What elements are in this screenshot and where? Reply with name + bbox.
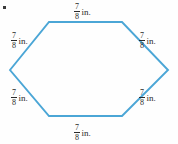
fraction-numerator: 7 [139, 89, 145, 97]
fraction-numerator: 7 [11, 89, 17, 97]
fraction-denominator: 8 [139, 99, 145, 107]
side-label-top: 7 8 in. [74, 3, 91, 21]
geometry-figure: 7 8 in. 7 8 in. 7 8 in. 7 8 in. 7 [0, 0, 178, 144]
unit-label: in. [82, 8, 91, 17]
side-label-lower-right: 7 8 in. [139, 89, 156, 107]
fraction-upper-left: 7 8 [11, 32, 17, 50]
fraction-denominator: 8 [11, 99, 17, 107]
side-label-upper-left: 7 8 in. [11, 32, 28, 50]
fraction-numerator: 7 [11, 32, 17, 40]
unit-label: in. [19, 94, 28, 103]
fraction-denominator: 8 [11, 42, 17, 50]
fraction-denominator: 8 [74, 13, 80, 21]
fraction-top: 7 8 [74, 3, 80, 21]
unit-label: in. [147, 94, 156, 103]
fraction-upper-right: 7 8 [139, 32, 145, 50]
fraction-bottom: 7 8 [74, 124, 80, 142]
fraction-lower-right: 7 8 [139, 89, 145, 107]
fraction-denominator: 8 [139, 42, 145, 50]
fraction-numerator: 7 [139, 32, 145, 40]
side-label-upper-right: 7 8 in. [139, 32, 156, 50]
unit-label: in. [19, 37, 28, 46]
side-label-lower-left: 7 8 in. [11, 89, 28, 107]
fraction-denominator: 8 [74, 134, 80, 142]
unit-label: in. [147, 37, 156, 46]
unit-label: in. [82, 129, 91, 138]
fraction-numerator: 7 [74, 3, 80, 11]
fraction-lower-left: 7 8 [11, 89, 17, 107]
side-label-bottom: 7 8 in. [74, 124, 91, 142]
fraction-numerator: 7 [74, 124, 80, 132]
hexagon-shape [0, 0, 178, 144]
